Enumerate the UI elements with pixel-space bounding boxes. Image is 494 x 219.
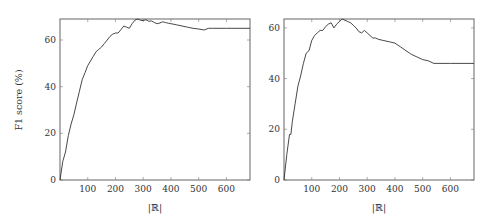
y-tick-label: 40 [269,74,281,84]
y-tick-label: 60 [45,35,57,45]
left-y-axis-label: F1 score (%) [13,69,24,130]
right-f1-line [284,19,474,180]
y-tick-label: 0 [50,175,56,185]
y-tick-label: 40 [45,82,57,92]
x-tick-label: 600 [218,184,235,194]
left-x-axis-label: |ℝ| [148,202,162,214]
left-plot-frame [60,19,250,180]
right-x-axis-label: |ℝ| [372,202,386,214]
y-tick-label: 0 [274,175,280,185]
x-tick-label: 500 [414,184,431,194]
x-tick-label: 300 [135,184,152,194]
left-plot: 100200300400500600 0204060 |ℝ| F1 score … [13,19,250,214]
right-plot: 100200300400500600 0204060 |ℝ| [269,19,474,214]
left-f1-line [60,19,250,180]
x-tick-label: 300 [359,184,376,194]
right-x-ticks: 100200300400500600 [303,19,459,194]
chart-canvas: 100200300400500600 0204060 |ℝ| F1 score … [0,0,494,219]
x-tick-label: 100 [79,184,96,194]
y-tick-label: 20 [45,128,57,138]
y-tick-label: 60 [269,23,281,33]
right-y-ticks: 0204060 [269,23,474,185]
x-tick-label: 400 [386,184,403,194]
x-tick-label: 500 [190,184,207,194]
right-plot-frame [284,19,474,180]
x-tick-label: 600 [442,184,459,194]
x-tick-label: 200 [331,184,348,194]
x-tick-label: 100 [303,184,320,194]
x-tick-label: 200 [107,184,124,194]
x-tick-label: 400 [162,184,179,194]
y-tick-label: 20 [269,124,281,134]
